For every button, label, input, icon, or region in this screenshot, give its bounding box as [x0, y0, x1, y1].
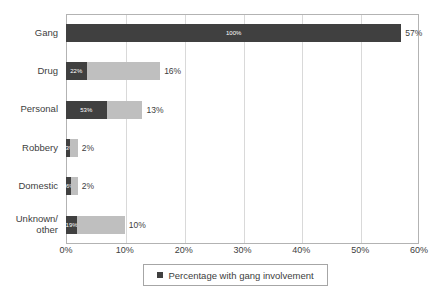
bar-total-value-label: 16% — [164, 67, 181, 76]
bar-segment-remainder — [87, 62, 161, 80]
y-axis-label: Drug — [0, 52, 62, 90]
bar-inner-value-label: 100% — [226, 30, 241, 36]
y-axis-category-labels: GangDrugPersonalRobberyDomesticUnknown/ … — [0, 14, 62, 244]
stacked-bar: 19%10% — [66, 216, 125, 234]
x-axis-tick-label: 40% — [292, 245, 310, 255]
x-axis-tick-label: 0% — [59, 245, 72, 255]
x-axis-tick-label: 10% — [116, 245, 134, 255]
bar-total-value-label: 10% — [129, 221, 146, 230]
stacked-bar: 53%13% — [66, 101, 142, 119]
bar-row: 22%16% — [66, 52, 419, 90]
y-axis-label: Personal — [0, 91, 62, 129]
bar-row: 53%13% — [66, 91, 419, 129]
bar-row: 33%2% — [66, 129, 419, 167]
x-axis-tick-label: 30% — [233, 245, 251, 255]
y-axis-label: Unknown/ other — [0, 206, 62, 244]
legend-label: Percentage with gang involvement — [168, 270, 313, 281]
chart-legend: Percentage with gang involvement — [143, 264, 328, 286]
bar-inner-value-label: 22% — [70, 68, 82, 74]
bar-row: 19%10% — [66, 206, 419, 244]
bar-row: 100%57% — [66, 14, 419, 52]
bar-segment-primary: 100% — [66, 24, 401, 42]
y-axis-label: Domestic — [0, 167, 62, 205]
bar-segment-primary: 53% — [66, 101, 107, 119]
stacked-bar: 46%2% — [66, 177, 78, 195]
bar-segment-remainder — [70, 139, 78, 157]
bar-total-value-label: 57% — [405, 29, 422, 38]
bar-total-value-label: 2% — [82, 144, 94, 153]
bar-chart: GangDrugPersonalRobberyDomesticUnknown/ … — [0, 0, 433, 298]
bar-segment-remainder — [77, 216, 125, 234]
bar-segment-remainder — [107, 101, 143, 119]
bar-segment-primary: 19% — [66, 216, 77, 234]
bar-total-value-label: 13% — [146, 106, 163, 115]
y-axis-label: Robbery — [0, 129, 62, 167]
bar-segment-primary: 22% — [66, 62, 87, 80]
y-axis-label: Gang — [0, 14, 62, 52]
bar-row: 46%2% — [66, 167, 419, 205]
stacked-bar: 22%16% — [66, 62, 160, 80]
stacked-bar: 100%57% — [66, 24, 401, 42]
x-axis-tick-labels: 0%10%20%30%40%50%60% — [66, 245, 419, 259]
bar-total-value-label: 2% — [82, 182, 94, 191]
bar-series-container: 100%57%22%16%53%13%33%2%46%2%19%10% — [66, 14, 419, 244]
bar-inner-value-label: 53% — [80, 107, 92, 113]
legend-swatch-icon — [157, 272, 163, 278]
x-axis-tick-label: 20% — [175, 245, 193, 255]
bar-segment-remainder — [71, 177, 77, 195]
x-axis-tick-label: 60% — [410, 245, 428, 255]
stacked-bar: 33%2% — [66, 139, 78, 157]
bar-inner-value-label: 19% — [66, 222, 78, 228]
x-axis-tick-label: 50% — [351, 245, 369, 255]
